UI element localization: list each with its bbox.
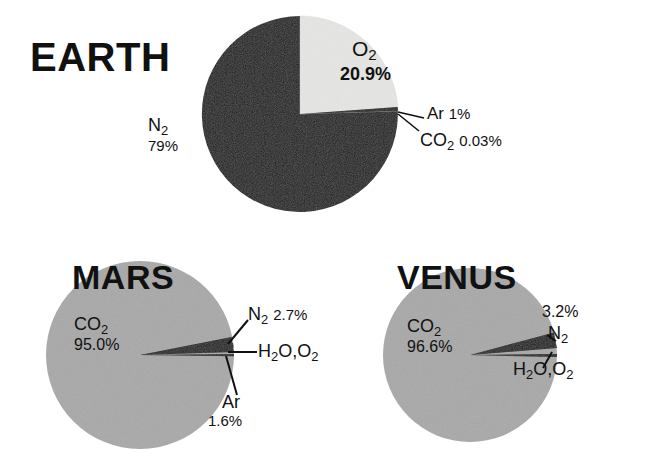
venus-trace-mid: O,O: [533, 359, 566, 379]
venus-n2-species: N: [548, 323, 561, 343]
mars-n2-subscript: 2: [261, 312, 268, 327]
earth-n2-species: N: [148, 115, 161, 135]
mars-trace-o-subscript: 2: [311, 349, 318, 364]
mars-trace-mid: O,O: [278, 341, 311, 361]
mars-label-n2: N2 2.7%: [248, 305, 307, 326]
venus-chart-title: VENUS: [397, 258, 517, 297]
mars-chart-title: MARS: [72, 258, 174, 297]
venus-label-trace-gases: H2O,O2: [513, 360, 573, 381]
earth-label-o2: O2 20.9%: [352, 38, 391, 84]
earth-o2-subscript: 2: [368, 46, 376, 63]
venus-co2-species: CO: [407, 316, 434, 336]
venus-label-n2: N2: [548, 324, 568, 345]
mars-ar-value: 1.6%: [208, 413, 242, 429]
earth-n2-subscript: 2: [161, 123, 168, 138]
earth-o2-value: 20.9%: [340, 65, 391, 84]
earth-ar-value: 1%: [449, 105, 471, 122]
venus-co2-value: 96.6%: [407, 339, 452, 356]
earth-o2-species: O: [352, 37, 368, 60]
earth-label-ar: Ar 1%: [427, 105, 470, 123]
mars-label-ar: Ar 1.6%: [222, 393, 242, 429]
earth-ar-species: Ar: [427, 104, 444, 123]
mars-n2-species: N: [248, 304, 261, 324]
atmosphere-pie-figure: EARTH O2 20.9% N2 79% Ar 1% CO2 0.03% MA…: [0, 0, 658, 470]
venus-label-co2: CO2 96.6%: [407, 317, 452, 356]
earth-n2-value: 79%: [148, 138, 178, 154]
earth-label-n2: N2 79%: [148, 116, 178, 154]
venus-co2-subscript: 2: [434, 324, 441, 339]
mars-n2-value: 2.7%: [273, 306, 307, 323]
venus-trace-o-subscript: 2: [566, 367, 573, 382]
mars-label-co2: CO2 95.0%: [74, 315, 119, 354]
mars-label-trace-gases: H2O,O2: [258, 342, 318, 363]
earth-co2-subscript: 2: [447, 138, 454, 153]
venus-trace-h: H: [513, 359, 526, 379]
earth-leader-lines: [398, 112, 424, 131]
earth-label-co2: CO2 0.03%: [420, 131, 502, 152]
earth-chart-title: EARTH: [30, 35, 170, 80]
mars-co2-value: 95.0%: [74, 337, 119, 354]
mars-ar-species: Ar: [222, 392, 240, 412]
venus-n2-value: 3.2%: [542, 304, 578, 321]
mars-co2-species: CO: [74, 314, 101, 334]
mars-co2-subscript: 2: [101, 322, 108, 337]
mars-trace-h: H: [258, 341, 271, 361]
earth-co2-species: CO: [420, 130, 447, 150]
earth-co2-value: 0.03%: [459, 132, 502, 149]
venus-n2-subscript: 2: [561, 331, 568, 346]
